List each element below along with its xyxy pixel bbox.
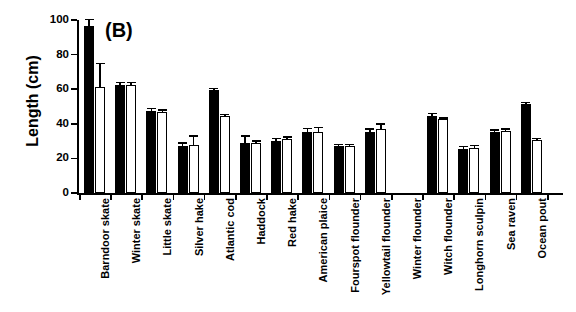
- error-bar-stem: [255, 142, 257, 143]
- bar-open: [220, 116, 230, 193]
- x-label-little-skate: Little skate: [161, 198, 174, 310]
- error-bar-cap: [439, 117, 448, 119]
- error-bar-cap: [209, 88, 218, 90]
- y-tick-60: [71, 88, 77, 90]
- error-bar-cap: [501, 128, 510, 130]
- bar-filled: [302, 132, 312, 193]
- error-bar-stem: [318, 128, 320, 131]
- error-bar-stem: [525, 103, 527, 104]
- bar-open: [469, 148, 479, 193]
- error-bar-cap: [85, 19, 94, 21]
- bar-group: [84, 20, 107, 193]
- error-bar-stem: [380, 125, 382, 129]
- bar-group: [458, 20, 481, 193]
- x-axis-line: [77, 193, 563, 195]
- error-bar-stem: [431, 114, 433, 116]
- error-bar-stem: [275, 139, 277, 141]
- error-bar-cap: [272, 138, 281, 140]
- y-tick-40: [71, 123, 77, 125]
- bar-group: [427, 20, 450, 193]
- error-bar-stem: [99, 64, 101, 86]
- x-label-silver-hake: Silver hake: [193, 198, 206, 310]
- bar-open: [282, 139, 292, 193]
- error-bar-stem: [463, 147, 465, 149]
- error-bar-cap: [116, 82, 125, 84]
- bar-group: [396, 20, 419, 193]
- bar-open: [313, 132, 323, 193]
- x-label-winter-skate: Winter skate: [130, 198, 143, 310]
- bar-open: [126, 85, 136, 193]
- error-bar-cap: [376, 123, 385, 125]
- bar-group: [521, 20, 544, 193]
- error-bar-cap: [252, 140, 261, 142]
- bar-open: [345, 146, 355, 193]
- x-label-witch-flounder: Witch flounder: [442, 198, 455, 310]
- x-label-yellowtail-flounder: Yellowtail flounder: [380, 198, 393, 310]
- x-label-barndoor-skate: Barndoor skate: [99, 198, 112, 310]
- error-bar-cap: [158, 109, 167, 111]
- bar-filled: [271, 141, 281, 193]
- x-label-red-hake: Red hake: [286, 198, 299, 310]
- bar-filled: [178, 146, 188, 193]
- error-bar-cap: [147, 108, 156, 110]
- y-tick-label-60: 60: [29, 83, 69, 95]
- bar-filled: [84, 26, 94, 193]
- error-bar-cap: [470, 145, 479, 147]
- error-bar-stem: [213, 89, 215, 90]
- error-bar-stem: [369, 130, 371, 132]
- error-bar-stem: [151, 109, 153, 111]
- error-bar-cap: [428, 113, 437, 115]
- bar-group: [240, 20, 263, 193]
- bar-filled: [427, 116, 437, 193]
- error-bar-cap: [365, 128, 374, 130]
- y-tick-label-100: 100: [29, 14, 69, 26]
- error-bar-stem: [474, 146, 476, 148]
- error-bar-cap: [96, 63, 105, 65]
- bar-filled: [209, 90, 219, 193]
- bar-filled: [240, 143, 250, 193]
- y-tick-100: [71, 19, 77, 21]
- error-bar-stem: [244, 137, 246, 143]
- error-bar-stem: [442, 119, 444, 120]
- bar-filled: [521, 104, 531, 193]
- x-label-sea-raven: Sea raven: [505, 198, 518, 310]
- bar-open: [251, 143, 261, 193]
- bar-open: [157, 112, 167, 193]
- error-bar-cap: [334, 144, 343, 146]
- error-bar-cap: [220, 114, 229, 116]
- bar-open: [438, 119, 448, 193]
- error-bar-stem: [286, 138, 288, 139]
- x-label-atlantic-cod: Atlantic cod: [224, 198, 237, 310]
- x-label-winter-flounder: Winter flounder: [411, 198, 424, 310]
- error-bar-cap: [532, 138, 541, 140]
- error-bar-stem: [88, 20, 90, 26]
- x-label-haddock: Haddock: [255, 198, 268, 310]
- error-bar-cap: [127, 82, 136, 84]
- error-bar-stem: [162, 111, 164, 112]
- error-bar-stem: [182, 144, 184, 147]
- error-bar-cap: [459, 146, 468, 148]
- error-bar-stem: [193, 137, 195, 145]
- x-label-fourspot-flounder: Fourspot flounder: [349, 198, 362, 310]
- x-axis-category-labels: Barndoor skateWinter skateLittle skateSi…: [77, 198, 563, 310]
- error-bar-cap: [189, 135, 198, 137]
- error-bar-cap: [303, 128, 312, 130]
- y-tick-80: [71, 54, 77, 56]
- y-tick-label-20: 20: [29, 152, 69, 164]
- bar-open: [95, 87, 105, 193]
- error-bar-stem: [338, 145, 340, 146]
- bar-group: [146, 20, 169, 193]
- bar-group: [490, 20, 513, 193]
- error-bar-stem: [494, 131, 496, 132]
- x-label-ocean-pout: Ocean pout: [536, 198, 549, 310]
- y-tick-0: [71, 192, 77, 194]
- bar-group: [302, 20, 325, 193]
- error-bar-cap: [178, 142, 187, 144]
- y-tick-20: [71, 158, 77, 160]
- error-bar-cap: [521, 102, 530, 104]
- bar-group: [365, 20, 388, 193]
- bar-filled: [458, 149, 468, 193]
- x-label-longhorn-sculpin: Longhorn sculpin: [473, 198, 486, 310]
- bar-open: [532, 140, 542, 193]
- error-bar-cap: [490, 129, 499, 131]
